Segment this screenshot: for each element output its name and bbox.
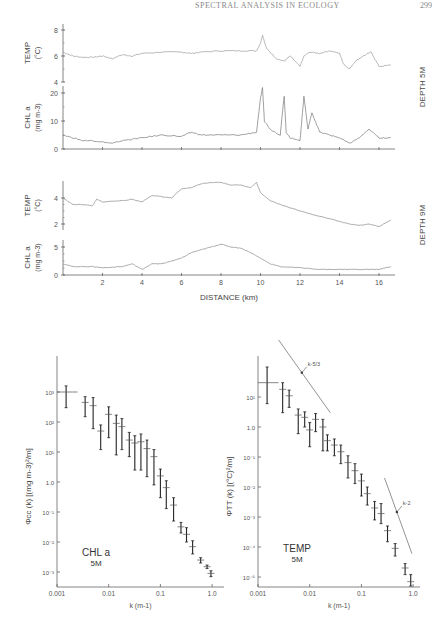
spectrum-annotation: CHL a	[82, 547, 110, 558]
y-tick-label: 1.0	[247, 425, 256, 431]
spectrum-annotation: TEMP	[283, 543, 311, 554]
transect-plots: 468TEMP(°C)01020CHL a(mg m-3)24TEMP(°C)0…	[23, 24, 427, 302]
x-axis-5m	[63, 147, 395, 150]
y-tick-label: 10⁻¹	[42, 510, 54, 516]
slope-label: k-5/3	[308, 361, 320, 367]
spectral-estimate	[351, 464, 358, 484]
spectral-estimate	[331, 439, 338, 456]
y-axis-title: Φcc (k) [(mg m-3)²/m]	[24, 448, 33, 525]
y-tick-label: 10⁻²	[42, 540, 54, 546]
spectral-estimate	[207, 571, 214, 577]
y-tick-label: 20	[50, 90, 58, 97]
depth-label-5m: DEPTH 5M	[418, 66, 427, 107]
y-tick-label: 4	[54, 195, 58, 202]
x-tick-label: 10	[257, 279, 265, 286]
data-trace	[63, 35, 391, 69]
y-tick-label: 5	[54, 244, 58, 251]
spectral-estimate	[163, 481, 170, 509]
y-axis-unit: (°C)	[34, 47, 42, 60]
spectral-estimate	[324, 435, 331, 451]
spectral-estimate	[306, 423, 313, 447]
spectral-estimate	[131, 436, 138, 470]
y-tick-label: 0	[54, 272, 58, 279]
slope-label: k-2	[403, 500, 411, 506]
x-tick-label: 0.001	[49, 590, 66, 597]
spectral-estimate	[384, 526, 391, 542]
transect-panel-temp-5m: 468TEMP(°C)	[23, 24, 391, 86]
y-axis-unit: (mg m-3)	[34, 103, 42, 131]
x-axis-9m: 246810121416	[63, 273, 395, 286]
temp-spectrum-plot: 0.0010.010.11.010¹1.010⁻¹10⁻²10⁻³10⁻⁴10⁻…	[225, 340, 420, 610]
x-tick-label: 4	[140, 279, 144, 286]
spectral-estimate	[177, 522, 184, 533]
spectral-estimate	[371, 501, 378, 519]
spectral-estimate	[337, 445, 344, 464]
y-tick-label: 4	[54, 79, 58, 86]
spectrum-depth: 5M	[291, 555, 302, 564]
data-trace	[63, 88, 391, 144]
y-tick-label: 10³	[45, 390, 54, 396]
spectral-estimate	[90, 398, 97, 429]
spectral-estimate	[204, 565, 211, 568]
x-tick-label: 0.1	[357, 590, 366, 597]
x-tick-label: 8	[219, 279, 223, 286]
spectral-estimate	[344, 456, 351, 478]
transect-panel-temp-9m: 24TEMP(°C)	[23, 181, 391, 230]
x-tick-label: 6	[180, 279, 184, 286]
x-tick-label: 12	[296, 279, 304, 286]
spectral-estimate	[312, 414, 319, 432]
x-tick-label: 16	[375, 279, 383, 286]
y-axis-unit: (°C)	[34, 199, 42, 212]
x-tick-label: 0.01	[303, 590, 316, 597]
spectral-estimate	[301, 412, 308, 427]
x-tick-label: 0.1	[156, 590, 165, 597]
spectral-estimate	[137, 434, 144, 470]
spectral-estimate	[57, 386, 78, 408]
spectral-estimate	[197, 558, 204, 563]
data-trace	[63, 244, 391, 269]
chl-spectrum-plot: 0.0010.010.11.010³10²10¹1.010⁻¹10⁻²10⁻³k…	[24, 356, 224, 610]
reference-slope-line	[385, 478, 412, 554]
y-tick-label: 10⁻⁴	[243, 545, 256, 551]
y-axis-unit: (mg m-3)	[34, 243, 42, 271]
y-tick-label: 10⁻³	[42, 570, 54, 576]
figure: 468TEMP(°C)01020CHL a(mg m-3)24TEMP(°C)0…	[0, 0, 447, 621]
y-axis-label: TEMP	[23, 42, 32, 64]
spectral-estimate	[143, 440, 150, 477]
transect-panel-chl-a-5m: 01020CHL a(mg m-3)	[23, 86, 391, 153]
spectral-estimate	[364, 487, 371, 505]
y-tick-label: 10	[50, 118, 58, 125]
x-tick-label: 0.01	[102, 590, 115, 597]
x-tick-label: 1.0	[208, 590, 217, 597]
y-tick-label: 10¹	[45, 450, 54, 456]
spectral-estimate	[258, 367, 279, 404]
spectral-estimate	[157, 469, 164, 498]
spectrum-plots: 0.0010.010.11.010³10²10¹1.010⁻¹10⁻²10⁻³k…	[24, 340, 420, 610]
spectrum-depth: 5M	[90, 559, 101, 568]
y-tick-label: 8	[54, 27, 58, 34]
x-tick-label: 1.0	[409, 590, 418, 597]
y-tick-label: 2	[54, 221, 58, 228]
y-tick-label: 1.0	[46, 480, 55, 486]
reference-slope-line	[279, 340, 331, 413]
y-tick-label: 10⁻⁵	[243, 575, 256, 581]
y-axis-label: CHL a	[23, 106, 32, 129]
spectral-estimate	[97, 425, 104, 450]
spectral-estimate	[279, 383, 286, 413]
y-axis-label: CHL a	[23, 246, 32, 269]
spectral-estimate	[189, 541, 196, 554]
y-tick-label: 10¹	[246, 395, 255, 401]
spectral-estimate	[150, 450, 157, 485]
transect-panel-chl-a-9m: 05CHL a(mg m-3)	[23, 240, 391, 279]
spectral-estimate	[392, 544, 399, 556]
y-tick-label: 10⁻³	[243, 515, 255, 521]
y-axis-title: ΦTT (k) [(°C)²/m]	[225, 456, 234, 516]
y-tick-label: 10⁻²	[243, 485, 255, 491]
y-tick-label: 0	[54, 146, 58, 153]
spectral-estimate	[295, 409, 302, 434]
x-tick-label: 14	[336, 279, 344, 286]
x-axis-title: k (m-1)	[328, 602, 350, 610]
spectral-estimate	[286, 390, 293, 407]
y-tick-label: 10²	[45, 420, 54, 426]
spectral-estimate	[82, 397, 89, 417]
